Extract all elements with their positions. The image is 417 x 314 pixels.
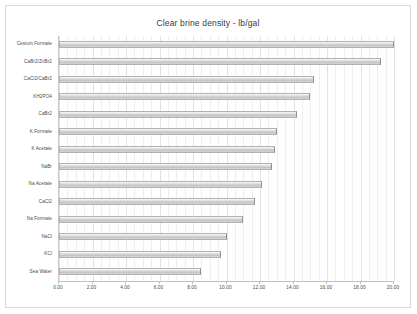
x-axis-tick-mark — [393, 281, 394, 284]
bar[interactable] — [59, 233, 227, 240]
x-axis-tick-label: 4.00 — [120, 285, 130, 290]
x-axis-tick-mark — [92, 281, 93, 284]
x-axis-tick-label: 12.00 — [253, 285, 266, 290]
x-axis-tick-label: 6.00 — [154, 285, 164, 290]
category-label: CaCl2 — [39, 200, 52, 205]
x-axis-tick-label: 2.00 — [87, 285, 97, 290]
x-axis-tick-label: 0.00 — [53, 285, 63, 290]
bar[interactable] — [59, 146, 275, 153]
x-axis-tick-mark — [192, 281, 193, 284]
bar[interactable] — [59, 93, 310, 100]
bar-series — [59, 36, 394, 281]
category-label: K Formate — [30, 130, 52, 135]
x-axis-tick-label: 8.00 — [187, 285, 197, 290]
gridline — [394, 36, 395, 281]
bar[interactable] — [59, 111, 297, 118]
category-label: KH2PO4 — [33, 95, 52, 100]
category-label: NaCl — [41, 235, 52, 240]
x-axis-tick-label: 18.00 — [353, 285, 366, 290]
category-label: K Acetate — [31, 147, 52, 152]
bar[interactable] — [59, 41, 394, 48]
category-label: CaCl2/CaBr2 — [24, 77, 52, 82]
x-axis-tick-mark — [159, 281, 160, 284]
x-axis-tick-mark — [293, 281, 294, 284]
bar[interactable] — [59, 251, 221, 258]
x-axis-tick-label: 20.00 — [387, 285, 400, 290]
x-axis-tick-label: 10.00 — [219, 285, 232, 290]
x-axis-tick-mark — [326, 281, 327, 284]
bar[interactable] — [59, 58, 381, 65]
category-label: NaBr — [41, 165, 52, 170]
chart-title: Clear brine density - lb/gal — [6, 18, 410, 28]
x-axis-tick-mark — [259, 281, 260, 284]
bar[interactable] — [59, 216, 243, 223]
category-label: CaBr2 — [38, 112, 52, 117]
chart-container: Clear brine density - lb/gal Cesium Form… — [5, 5, 411, 308]
bar[interactable] — [59, 181, 262, 188]
x-axis-tick-mark — [58, 281, 59, 284]
plot-area — [58, 36, 394, 282]
bar[interactable] — [59, 198, 255, 205]
x-axis-tick-label: 14.00 — [286, 285, 299, 290]
x-axis-tick-mark — [125, 281, 126, 284]
bar[interactable] — [59, 163, 272, 170]
x-axis-tick-labels: 0.002.004.006.008.0010.0012.0014.0016.00… — [58, 285, 393, 297]
bar[interactable] — [59, 128, 277, 135]
x-axis-tick-mark — [226, 281, 227, 284]
category-label: Cesium Formate — [17, 42, 52, 47]
x-axis-tick-label: 16.00 — [320, 285, 333, 290]
category-label: KCl — [44, 252, 52, 257]
category-label: Na Formate — [27, 217, 52, 222]
bar[interactable] — [59, 76, 314, 83]
category-label: Na Acetate — [29, 182, 52, 187]
category-label: Sea Water — [30, 270, 52, 275]
category-label: CaBr2/ZnBr2 — [24, 60, 52, 65]
x-axis-tick-mark — [360, 281, 361, 284]
y-axis-category-labels: Cesium FormateCaBr2/ZnBr2CaCl2/CaBr2KH2P… — [6, 36, 55, 281]
bar[interactable] — [59, 268, 201, 275]
